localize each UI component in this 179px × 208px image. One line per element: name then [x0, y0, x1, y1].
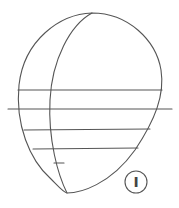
guide-line-3: [33, 148, 138, 149]
step-badge-label: I: [133, 174, 138, 190]
center-line: [50, 13, 92, 193]
head-construction-drawing: I: [0, 0, 179, 208]
head-outline: [18, 13, 162, 193]
guide-line-2: [24, 129, 150, 130]
sketch-canvas: I: [0, 0, 179, 208]
